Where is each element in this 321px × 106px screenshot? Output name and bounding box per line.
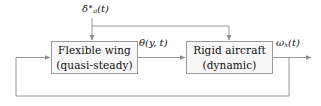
- block-flexible-wing-line1: Flexible wing: [58, 43, 131, 57]
- delta-a-argument: (t): [97, 3, 109, 14]
- block-rigid-aircraft-line2: (dynamic): [203, 58, 257, 72]
- signal-label-theta: θ(y, t): [139, 37, 168, 48]
- block-flexible-wing-line2: (quasi-steady): [56, 58, 132, 72]
- block-diagram: Flexible wing (quasi-steady) Rigid aircr…: [0, 0, 321, 106]
- signal-label-delta-a-star: δ∗a(t): [82, 2, 109, 15]
- block-flexible-wing: Flexible wing (quasi-steady): [51, 41, 138, 74]
- signal-label-omega-x: ωx(t): [276, 37, 300, 49]
- theta-argument: (y, t): [145, 37, 168, 48]
- omega-argument: (t): [288, 37, 300, 48]
- block-rigid-aircraft: Rigid aircraft (dynamic): [186, 41, 273, 74]
- omega-base: ω: [276, 37, 284, 48]
- block-rigid-aircraft-line1: Rigid aircraft: [193, 43, 266, 57]
